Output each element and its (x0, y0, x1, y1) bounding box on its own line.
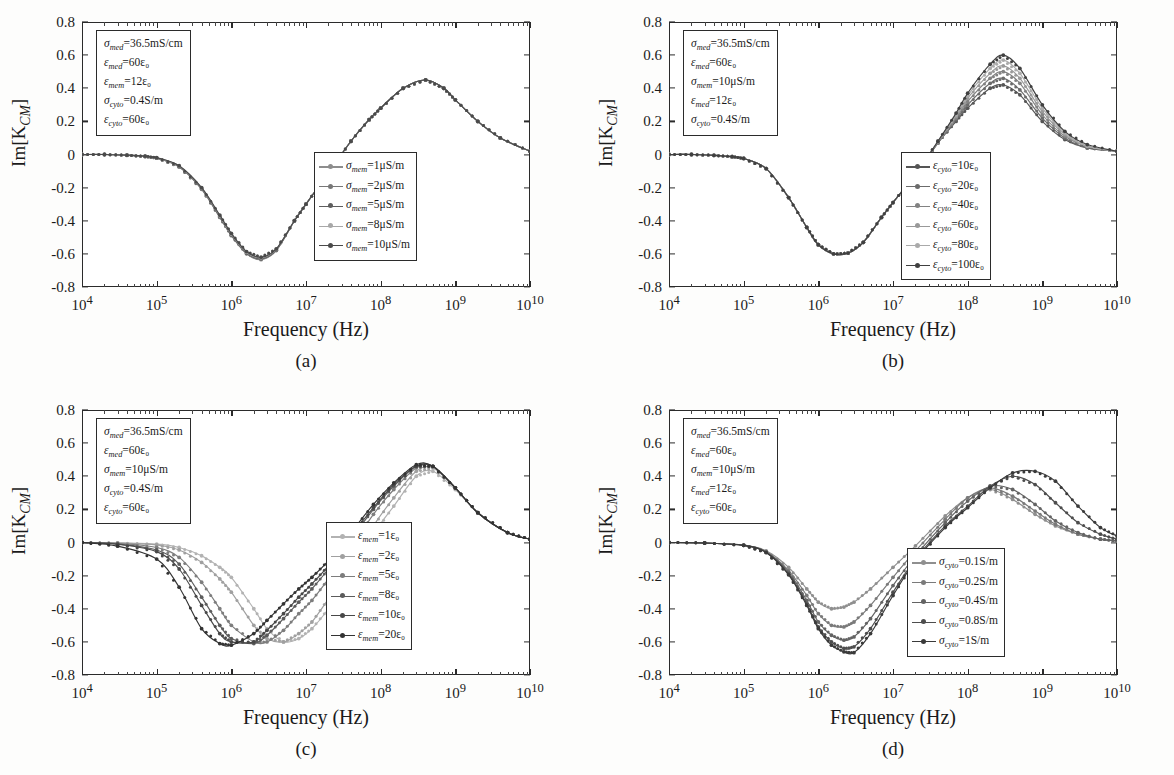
legend-item[interactable]: σmem=10μS/m (319, 236, 410, 256)
data-marker (241, 638, 244, 641)
parameter-row: εmed=12ε₀ (691, 92, 770, 111)
data-marker (861, 240, 865, 244)
y-tick-label: 0.6 (643, 435, 669, 452)
data-marker (1049, 497, 1052, 500)
legend-item[interactable]: εmem=2ε₀ (331, 547, 405, 567)
data-marker (897, 585, 900, 588)
data-marker (423, 472, 426, 475)
plot-area: 0.80.60.40.20-0.2-0.4-0.6-0.810410510610… (82, 410, 530, 675)
data-marker (869, 617, 873, 621)
data-marker (1011, 494, 1015, 498)
legend-item[interactable]: σcyto=1S/m (912, 632, 998, 652)
data-marker (992, 70, 995, 73)
x-tick-label: 108 (957, 675, 978, 702)
legend-item[interactable]: εcyto=100ε₀ (906, 256, 984, 276)
data-marker (865, 622, 868, 625)
data-marker (875, 609, 878, 612)
data-marker (827, 637, 830, 640)
legend-item[interactable]: εcyto=80ε₀ (906, 236, 984, 256)
legend-swatch-icon (319, 241, 343, 251)
data-marker (950, 119, 953, 122)
data-marker (172, 162, 175, 165)
x-tick-label: 1010 (1103, 675, 1131, 702)
data-marker (224, 643, 227, 646)
data-marker (814, 239, 817, 242)
data-marker (377, 517, 380, 520)
data-marker (1039, 513, 1042, 516)
data-marker (1014, 69, 1017, 72)
legend-item[interactable]: σcyto=0.1S/m (912, 553, 998, 573)
data-marker (966, 506, 970, 510)
data-marker (1071, 528, 1074, 531)
x-tick-label: 104 (658, 287, 679, 314)
legend-item[interactable]: σcyto=0.2S/m (912, 573, 998, 593)
y-tick-label: -0.4 (638, 600, 669, 617)
x-tick-label: 107 (295, 287, 316, 314)
data-marker (366, 513, 369, 516)
data-marker (214, 573, 217, 576)
data-marker (748, 160, 751, 163)
data-marker (227, 634, 230, 637)
data-marker (262, 636, 265, 639)
data-marker (836, 252, 839, 255)
parameter-row: εmed=12ε₀ (691, 480, 770, 499)
data-marker (1018, 93, 1022, 97)
x-tick-label: 106 (808, 675, 829, 702)
data-marker (245, 250, 249, 254)
legend-item[interactable]: σmem=5μS/m (319, 196, 410, 216)
data-marker (1018, 76, 1022, 80)
data-marker (880, 613, 883, 616)
data-marker (282, 612, 286, 616)
data-marker (936, 526, 939, 529)
data-marker (265, 640, 269, 644)
data-marker (977, 77, 980, 80)
legend-item[interactable]: σmem=8μS/m (319, 216, 410, 236)
data-marker (437, 474, 440, 477)
legend-item[interactable]: εmem=1ε₀ (331, 527, 405, 547)
legend-label: σmem=8μS/m (346, 216, 404, 236)
data-marker (891, 201, 895, 205)
data-marker (713, 542, 716, 545)
data-marker (820, 602, 823, 605)
data-marker (304, 606, 307, 609)
data-marker (221, 627, 224, 630)
legend-item[interactable]: σmem=1μS/m (319, 157, 410, 177)
data-marker (172, 553, 175, 556)
data-marker (972, 94, 975, 97)
legend-item[interactable]: εmem=8ε₀ (331, 586, 405, 606)
data-marker (126, 545, 129, 548)
legend-item[interactable]: εmem=20ε₀ (331, 626, 405, 646)
legend-item[interactable]: εmem=5ε₀ (331, 566, 405, 586)
legend-item[interactable]: σcyto=0.4S/m (912, 592, 998, 612)
data-marker (808, 230, 811, 233)
data-marker (999, 84, 1002, 87)
data-marker (854, 246, 857, 249)
data-marker (528, 537, 530, 541)
legend-item[interactable]: σmem=2μS/m (319, 177, 410, 197)
data-marker (161, 158, 164, 161)
data-marker (319, 588, 322, 591)
data-marker (293, 600, 296, 603)
legend-item[interactable]: εcyto=20ε₀ (906, 177, 984, 197)
data-marker (966, 91, 970, 95)
data-marker (811, 603, 814, 606)
data-marker (824, 248, 827, 251)
data-marker (999, 61, 1002, 64)
data-marker (808, 610, 811, 613)
data-marker (177, 548, 181, 552)
data-marker (857, 641, 860, 644)
legend-item[interactable]: εcyto=60ε₀ (906, 216, 984, 236)
y-tick-label: -0.6 (638, 245, 669, 262)
data-marker (189, 579, 192, 582)
legend-item[interactable]: σcyto=0.8S/m (912, 612, 998, 632)
legend-item[interactable]: εcyto=40ε₀ (906, 196, 984, 216)
legend-item[interactable]: εmem=10ε₀ (331, 606, 405, 626)
data-marker (263, 254, 266, 257)
data-marker (1065, 492, 1068, 495)
x-tick-mark (1117, 281, 1118, 287)
data-marker (359, 129, 362, 132)
data-marker (103, 153, 107, 157)
legend-item[interactable]: εcyto=10ε₀ (906, 157, 984, 177)
data-marker (86, 153, 89, 156)
parameter-box: σmed=36.5mS/cmεmed=60ε₀σmem=10μS/mεmed=1… (683, 30, 778, 136)
